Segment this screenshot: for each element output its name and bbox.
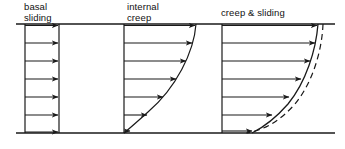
panel-creep-and-sliding bbox=[222, 24, 323, 133]
panel2-arrows bbox=[124, 26, 195, 132]
panel-label-creep-and-sliding: creep & sliding bbox=[221, 8, 285, 19]
panel3-arrows bbox=[222, 26, 317, 132]
panel-internal-creep bbox=[124, 24, 196, 133]
velocity-profile-diagram bbox=[0, 0, 345, 149]
panel-basal-sliding bbox=[25, 24, 59, 133]
panel-label-basal-sliding: basal sliding bbox=[24, 2, 52, 23]
figure-canvas: basal sliding internal creep creep & sli… bbox=[0, 0, 345, 149]
panel1-arrows bbox=[25, 26, 58, 133]
panel-label-internal-creep: internal creep bbox=[127, 2, 159, 23]
